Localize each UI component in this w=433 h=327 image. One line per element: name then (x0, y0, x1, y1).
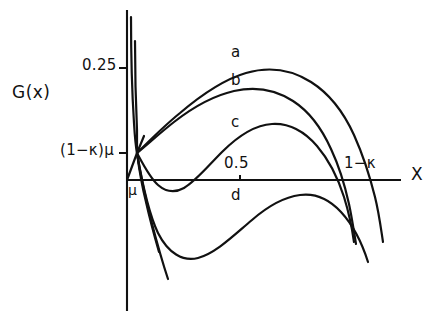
x-axis-label: X (411, 166, 423, 183)
curve-label-b: b (231, 73, 241, 88)
y-tick-label-one-minus-kappa-mu: (1−κ)μ (60, 143, 114, 158)
x-tick-label-half: 0.5 (224, 156, 249, 171)
x-tick-label-one-minus-kappa: 1−κ (344, 156, 376, 171)
y-tick-label-025: 0.25 (82, 58, 117, 73)
curve-label-d: d (231, 188, 241, 203)
y-axis-label: G(x) (12, 84, 51, 101)
figure-canvas: G(x) X 0.25 (1−κ)μ μ 0.5 1−κ a b c d (0, 0, 433, 327)
x-tick-label-mu: μ (128, 183, 137, 197)
curve-label-c: c (231, 115, 239, 130)
curve-label-a: a (231, 45, 240, 60)
